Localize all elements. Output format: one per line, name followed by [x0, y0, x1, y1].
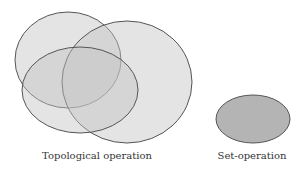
- ellipse-bottom-left: [22, 47, 138, 133]
- set-operation-caption: Set-operation: [218, 150, 287, 161]
- set-ellipse: [216, 95, 290, 143]
- topological-operation-caption: Topological operation: [42, 150, 152, 161]
- venn-diagram: [0, 0, 301, 169]
